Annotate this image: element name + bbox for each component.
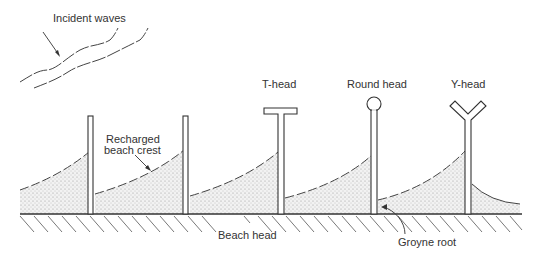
label-groyne-root: Groyne root xyxy=(398,236,456,248)
label-round-head: Round head xyxy=(347,78,407,90)
label-t-head: T-head xyxy=(262,78,296,90)
label-y-head: Y-head xyxy=(451,78,485,90)
label-beach-head: Beach head xyxy=(218,229,277,241)
recharged-crest-arrow xyxy=(135,155,151,171)
groyne-straight-2 xyxy=(183,116,188,214)
incident-waves-icon xyxy=(20,28,148,88)
label-incident-waves: Incident waves xyxy=(53,12,126,24)
diagram-canvas xyxy=(0,0,542,260)
beach-sand xyxy=(20,150,520,214)
label-recharged-line2: beach crest xyxy=(104,144,161,156)
groyne-straight-1 xyxy=(88,116,93,214)
incident-waves-arrow xyxy=(43,32,60,57)
